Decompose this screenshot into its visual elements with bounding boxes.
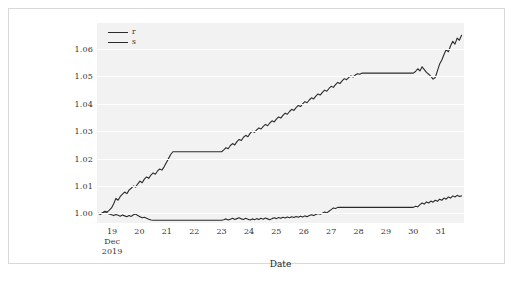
x-tick-year: 2019: [102, 247, 122, 257]
gridline-y-2: [97, 159, 464, 160]
x-tick-label-23: 23: [217, 227, 227, 237]
legend-swatch-s: [108, 42, 128, 43]
gridline-y-1: [97, 186, 464, 187]
x-tick-label-28: 28: [353, 227, 363, 237]
series-canvas: [97, 23, 464, 223]
y-tick-label-1.01: 1.01: [74, 182, 93, 191]
x-axis-title: Date: [97, 259, 464, 269]
x-tick-label-27: 27: [326, 227, 336, 237]
gridline-y-0: [97, 213, 464, 214]
x-tick-day: 25: [271, 227, 281, 236]
legend: r s: [105, 25, 139, 49]
x-tick-day: 26: [299, 227, 309, 236]
gridline-y-6: [97, 49, 464, 50]
x-tick-label-31: 31: [436, 227, 446, 237]
x-tick-day: 24: [244, 227, 254, 236]
y-tick-label-1.02: 1.02: [74, 154, 93, 163]
x-tick-day: 28: [353, 227, 363, 236]
y-tick-label-1.04: 1.04: [74, 99, 93, 108]
figure-card: r s 1.001.011.021.031.041.051.06 19Dec20…: [8, 8, 505, 264]
series-line-s: [98, 195, 461, 220]
x-tick-label-22: 22: [189, 227, 199, 237]
x-tick-day: 22: [189, 227, 199, 236]
x-tick-day: 20: [134, 227, 144, 236]
x-tick-label-29: 29: [381, 227, 391, 237]
x-tick-label-21: 21: [162, 227, 172, 237]
x-tick-label-25: 25: [271, 227, 281, 237]
x-tick-label-24: 24: [244, 227, 254, 237]
plot-area: [97, 23, 464, 223]
y-tick-label-1.06: 1.06: [74, 45, 93, 54]
y-tick-label-1.00: 1.00: [74, 209, 93, 218]
x-tick-day: 27: [326, 227, 336, 236]
gridline-y-3: [97, 131, 464, 132]
gridline-y-4: [97, 104, 464, 105]
legend-label-r: r: [132, 28, 136, 36]
x-tick-day: 31: [436, 227, 446, 236]
x-tick-day: 19: [107, 227, 117, 236]
x-tick-day: 23: [217, 227, 227, 236]
legend-item-r[interactable]: r: [108, 27, 136, 37]
x-tick-day: 21: [162, 227, 172, 236]
x-tick-day: 30: [408, 227, 418, 236]
y-tick-label-1.05: 1.05: [74, 72, 93, 81]
x-tick-label-20: 20: [134, 227, 144, 237]
series-line-r: [98, 35, 461, 214]
x-tick-label-30: 30: [408, 227, 418, 237]
x-tick-label-19: 19Dec2019: [102, 227, 122, 257]
legend-item-s[interactable]: s: [108, 37, 136, 47]
x-tick-label-26: 26: [299, 227, 309, 237]
y-tick-label-1.03: 1.03: [74, 127, 93, 136]
legend-label-s: s: [132, 38, 136, 46]
legend-swatch-r: [108, 32, 128, 33]
x-tick-month: Dec: [102, 237, 122, 247]
x-tick-day: 29: [381, 227, 391, 236]
y-axis-ticks: 1.001.011.021.031.041.051.06: [61, 23, 93, 223]
gridline-y-5: [97, 76, 464, 77]
x-axis-ticks: 19Dec2019202122232425262728293031: [97, 227, 464, 261]
